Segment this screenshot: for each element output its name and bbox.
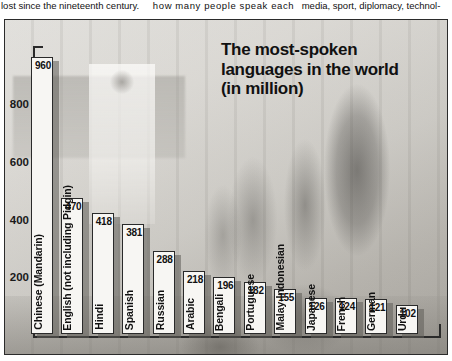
bar-item: 288Russian bbox=[153, 251, 175, 334]
y-axis-tick-label: 600 bbox=[4, 157, 29, 168]
bar-category-label: Urdu bbox=[396, 307, 418, 331]
bar-body: 960Chinese (Mandarin) bbox=[31, 57, 53, 334]
bar-body: 381Spanish bbox=[122, 224, 144, 334]
y-axis-tick-label: 400 bbox=[4, 215, 29, 226]
bar-category-label: Portuguese bbox=[244, 274, 266, 331]
plot-area: 200400600800 960Chinese (Mandarin)Englis… bbox=[5, 20, 447, 354]
article-column-2: how many people speak each bbox=[149, 0, 297, 11]
bar-item: 960Chinese (Mandarin) bbox=[31, 57, 53, 334]
y-axis-tick-label: 200 bbox=[4, 272, 29, 283]
y-axis-tick-label: 800 bbox=[4, 99, 29, 110]
bar-value-label: 218 bbox=[184, 274, 206, 285]
x-axis-end-cap bbox=[439, 324, 441, 338]
bar-value-label: 288 bbox=[154, 254, 176, 265]
bar-item: 381Spanish bbox=[122, 224, 144, 334]
bar-value-label: 960 bbox=[32, 60, 54, 71]
bar-body: 418Hindi bbox=[92, 213, 114, 334]
bar-category-label: Arabic bbox=[184, 298, 206, 330]
article-column-1: lost since the nineteenth century. bbox=[0, 0, 149, 11]
chart-figure: The most-spoken languages in the world (… bbox=[4, 19, 448, 355]
bar-value-label: 196 bbox=[214, 280, 236, 291]
bar-category-label: Hindi bbox=[93, 304, 115, 330]
bar-item: 218Arabic bbox=[183, 271, 205, 334]
bar-item: 418Hindi bbox=[92, 213, 114, 334]
bar-category-label: French bbox=[335, 297, 357, 331]
bar-category-label: Chinese (Mandarin) bbox=[32, 234, 54, 330]
article-text-columns: lost since the nineteenth century. how m… bbox=[0, 0, 452, 17]
bar-category-label: Japanese bbox=[305, 284, 327, 331]
article-column-3: media, sport, diplomacy, technol- bbox=[298, 0, 452, 11]
bar-category-label: English (not including Pidgin) bbox=[61, 185, 83, 331]
bar-category-label: Russian bbox=[154, 290, 176, 330]
bar-category-label: Malay-Indonesian bbox=[274, 244, 296, 331]
bar-value-label: 381 bbox=[123, 227, 145, 238]
bar-body: 218Arabic bbox=[183, 271, 205, 334]
y-axis-top-cap bbox=[33, 46, 43, 48]
bar-body: 288Russian bbox=[153, 251, 175, 334]
bar-category-label: Spanish bbox=[123, 290, 145, 330]
bar-value-label: 418 bbox=[93, 216, 115, 227]
bar-category-label: Bengali bbox=[213, 294, 235, 331]
bar-category-label: German bbox=[365, 292, 387, 331]
